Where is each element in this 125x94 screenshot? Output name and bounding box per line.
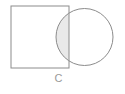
figure-caption-label: C	[0, 72, 117, 84]
geometry-figure: C	[0, 0, 125, 94]
